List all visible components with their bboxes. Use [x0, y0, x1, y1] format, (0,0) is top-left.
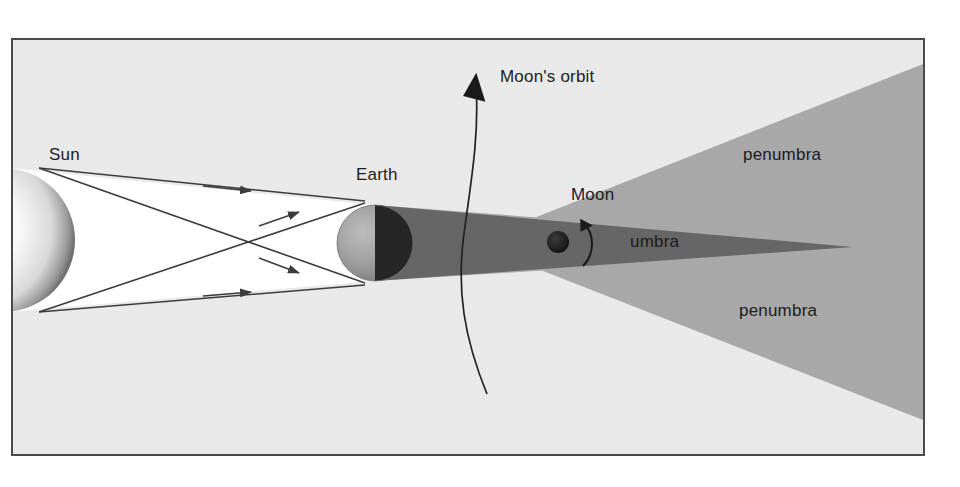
label-penumbra-upper: penumbra [743, 146, 821, 163]
eclipse-geometry-layer [13, 40, 923, 454]
label-earth: Earth [356, 166, 398, 183]
label-penumbra-lower: penumbra [739, 302, 817, 319]
eclipse-figure-frame: Sun Earth Moon Moon's orbit umbra penumb… [11, 38, 925, 456]
label-sun: Sun [49, 146, 80, 163]
moon-disc [547, 231, 569, 253]
label-moon: Moon [571, 186, 614, 203]
label-umbra: umbra [630, 233, 679, 250]
diagram-canvas: Sun Earth Moon Moon's orbit umbra penumb… [0, 0, 960, 487]
moon-orbit-arrowhead [463, 71, 490, 102]
label-moons-orbit: Moon's orbit [500, 68, 594, 85]
